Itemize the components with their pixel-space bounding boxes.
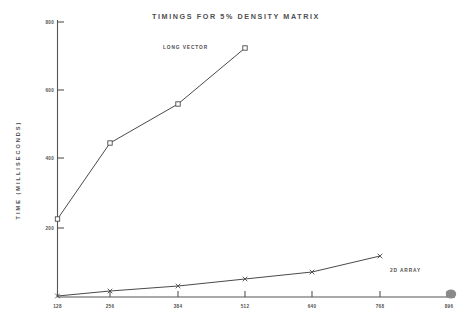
x-axis-tick-labels: 128 256 384 512 640 768 896 — [53, 304, 453, 309]
x-tick-label-768: 768 — [376, 304, 385, 309]
long-vector-point-3 — [243, 46, 247, 50]
x-tick-label-896: 896 — [445, 304, 454, 309]
long-vector-point-2 — [176, 102, 180, 106]
x-tick-label-128: 128 — [53, 304, 62, 309]
long-vector-point-1 — [108, 141, 112, 145]
x-tick-label-512: 512 — [241, 304, 250, 309]
long-vector-line — [58, 48, 246, 219]
x-tick-label-256: 256 — [106, 304, 115, 309]
chart-axes — [58, 20, 456, 297]
two-d-array-annotation: 2D ARRAY — [390, 268, 421, 273]
x-tick-label-384: 384 — [174, 304, 183, 309]
two-d-array-line — [58, 256, 381, 296]
y-axis-tick-labels: 800 600 400 200 — [45, 20, 54, 231]
y-tick-label-400: 400 — [45, 156, 54, 161]
long-vector-point-0 — [55, 217, 59, 221]
series-2d-array: 2D ARRAY — [55, 254, 421, 299]
chart-title: TIMINGS FOR 5% DENSITY MATRIX — [152, 12, 320, 21]
axis-end-smudge — [446, 289, 456, 298]
y-tick-label-200: 200 — [45, 226, 54, 231]
y-axis-label: TIME (MILLISECONDS) — [15, 121, 21, 220]
y-tick-label-800: 800 — [45, 20, 54, 25]
chart-canvas: 800 600 400 200 128 256 384 512 640 768 … — [0, 0, 472, 328]
y-tick-label-600: 600 — [45, 88, 54, 93]
long-vector-annotation: LONG VECTOR — [163, 45, 208, 50]
series-long-vector: LONG VECTOR — [55, 45, 247, 221]
x-tick-label-640: 640 — [308, 304, 317, 309]
y-axis-ticks — [58, 22, 65, 228]
chart-container: 800 600 400 200 128 256 384 512 640 768 … — [0, 0, 472, 328]
x-axis-ticks — [58, 291, 448, 297]
